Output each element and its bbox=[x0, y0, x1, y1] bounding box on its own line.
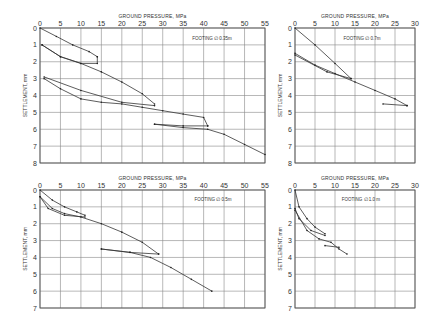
data-point-marker bbox=[101, 71, 103, 73]
plot-panel-bottom-right: 05101520253001234567GROUND PRESSURE, MPa… bbox=[277, 175, 419, 312]
y-tick-label: 7 bbox=[288, 143, 292, 150]
settlement-curve bbox=[40, 28, 97, 57]
data-point-marker bbox=[80, 98, 82, 100]
x-axis-title: GROUND PRESSURE, MPa bbox=[321, 175, 389, 181]
footing-annotation: FOOTING ∅ 0.7m bbox=[343, 36, 380, 41]
y-tick-label: 1 bbox=[33, 41, 37, 48]
settlement-curve bbox=[155, 124, 266, 154]
data-point-marker bbox=[101, 101, 103, 103]
x-tick-label: 15 bbox=[97, 182, 105, 189]
y-tick-label: 4 bbox=[288, 92, 292, 99]
settlement-curve bbox=[101, 249, 211, 291]
y-tick-label: 6 bbox=[33, 126, 37, 133]
y-tick-label: 2 bbox=[33, 220, 37, 227]
data-point-marker bbox=[60, 56, 62, 58]
data-point-marker bbox=[294, 54, 296, 56]
y-tick-label: 6 bbox=[33, 288, 37, 295]
y-tick-label: 1 bbox=[288, 203, 292, 210]
y-tick-label: 8 bbox=[288, 160, 292, 167]
y-axis-title: SETTLEMENT, mm bbox=[22, 227, 28, 271]
data-point-marker bbox=[154, 103, 156, 105]
data-point-marker bbox=[223, 134, 225, 136]
settlement-curve bbox=[325, 246, 339, 248]
y-tick-label: 3 bbox=[288, 75, 292, 82]
data-point-marker bbox=[51, 208, 53, 210]
y-tick-label: 4 bbox=[33, 254, 37, 261]
y-tick-label: 0 bbox=[33, 25, 37, 32]
data-point-marker bbox=[338, 248, 340, 250]
data-point-marker bbox=[244, 144, 246, 146]
data-point-marker bbox=[141, 107, 143, 109]
x-tick-label: 40 bbox=[200, 20, 208, 27]
x-tick-label: 10 bbox=[331, 20, 339, 27]
data-point-marker bbox=[96, 63, 98, 65]
data-point-marker bbox=[56, 36, 58, 38]
data-point-marker bbox=[170, 267, 172, 269]
y-tick-label: 4 bbox=[33, 92, 37, 99]
x-tick-label: 50 bbox=[241, 20, 249, 27]
x-tick-label: 5 bbox=[59, 20, 63, 27]
y-tick-label: 7 bbox=[33, 143, 37, 150]
y-tick-label: 6 bbox=[288, 288, 292, 295]
x-tick-label: 30 bbox=[411, 20, 419, 27]
footing-annotation: FOOTING ∅ 0.5m bbox=[194, 197, 231, 202]
y-tick-label: 6 bbox=[288, 126, 292, 133]
x-axis-title: GROUND PRESSURE, MPa bbox=[118, 13, 186, 19]
x-tick-label: 20 bbox=[118, 20, 126, 27]
data-point-marker bbox=[314, 64, 316, 66]
y-tick-label: 8 bbox=[33, 160, 37, 167]
data-point-marker bbox=[84, 214, 86, 216]
data-point-marker bbox=[158, 253, 160, 255]
data-point-marker bbox=[294, 208, 296, 210]
x-tick-label: 10 bbox=[77, 182, 85, 189]
data-point-marker bbox=[39, 196, 41, 198]
data-point-marker bbox=[191, 279, 193, 281]
data-point-marker bbox=[141, 241, 143, 243]
data-point-marker bbox=[41, 44, 43, 46]
x-tick-label: 55 bbox=[261, 20, 269, 27]
data-point-marker bbox=[80, 63, 82, 65]
data-point-marker bbox=[346, 253, 348, 255]
x-tick-label: 25 bbox=[138, 182, 146, 189]
data-point-marker bbox=[354, 81, 356, 83]
y-tick-label: 0 bbox=[33, 187, 37, 194]
x-tick-label: 30 bbox=[411, 182, 419, 189]
data-point-marker bbox=[150, 257, 152, 259]
y-tick-label: 7 bbox=[33, 305, 37, 312]
data-point-marker bbox=[182, 113, 184, 115]
y-tick-label: 5 bbox=[288, 109, 292, 116]
data-point-marker bbox=[39, 27, 41, 29]
data-point-marker bbox=[324, 235, 326, 237]
data-point-marker bbox=[101, 223, 103, 225]
y-tick-label: 2 bbox=[33, 58, 37, 65]
x-tick-label: 25 bbox=[391, 20, 399, 27]
y-tick-label: 5 bbox=[288, 271, 292, 278]
data-point-marker bbox=[121, 231, 123, 233]
x-tick-label: 35 bbox=[179, 20, 187, 27]
settlement-curve bbox=[42, 45, 97, 64]
x-tick-label: 15 bbox=[351, 20, 359, 27]
x-tick-label: 30 bbox=[159, 182, 167, 189]
settlement-chart-figure: 0510152025303540455055012345678GROUND PR… bbox=[0, 0, 433, 323]
y-tick-label: 5 bbox=[33, 271, 37, 278]
data-point-marker bbox=[207, 125, 209, 127]
data-point-marker bbox=[88, 51, 90, 53]
x-tick-label: 45 bbox=[220, 20, 228, 27]
data-point-marker bbox=[314, 44, 316, 46]
x-tick-label: 10 bbox=[331, 182, 339, 189]
data-point-marker bbox=[96, 56, 98, 58]
y-axis-title: SETTLEMENT, mm bbox=[22, 74, 28, 118]
x-tick-label: 15 bbox=[97, 20, 105, 27]
data-point-marker bbox=[310, 230, 312, 232]
settlement-curve bbox=[295, 190, 325, 234]
data-point-marker bbox=[207, 128, 209, 130]
settlement-curve bbox=[40, 197, 159, 254]
y-axis-title: SETTLEMENT, mm bbox=[277, 74, 283, 118]
footing-annotation: FOOTING ∅ 0.35m bbox=[192, 36, 232, 41]
x-tick-label: 45 bbox=[220, 182, 228, 189]
data-point-marker bbox=[64, 206, 66, 208]
x-tick-label: 20 bbox=[371, 182, 379, 189]
y-axis-title: SETTLEMENT, mm bbox=[277, 227, 283, 271]
x-tick-label: 0 bbox=[293, 182, 297, 189]
data-point-marker bbox=[121, 81, 123, 83]
